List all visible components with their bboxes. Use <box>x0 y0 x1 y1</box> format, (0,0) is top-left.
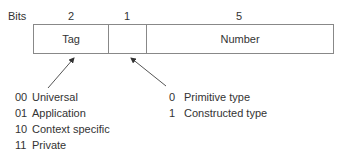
field-number: Number <box>147 33 333 45</box>
class-code: 11 <box>15 139 26 151</box>
type-code: 0 <box>169 91 175 103</box>
field-tag: Tag <box>34 33 108 45</box>
type-label: Primitive type <box>184 91 250 103</box>
class-code: 01 <box>15 107 27 119</box>
class-label: Context specific <box>32 123 110 135</box>
class-label: Private <box>32 139 66 151</box>
type-label: Constructed type <box>184 107 267 119</box>
class-label: Application <box>32 107 86 119</box>
tag-arrow <box>48 58 74 88</box>
bits-label: Bits <box>8 10 26 22</box>
bit-count-tag: 2 <box>68 10 74 22</box>
class-label: Universal <box>32 91 78 103</box>
class-code: 00 <box>15 91 27 103</box>
type-arrow <box>131 58 166 86</box>
type-code: 1 <box>169 107 175 119</box>
bit-count-number: 5 <box>236 10 242 22</box>
bit-count-type: 1 <box>124 10 130 22</box>
class-code: 10 <box>15 123 27 135</box>
